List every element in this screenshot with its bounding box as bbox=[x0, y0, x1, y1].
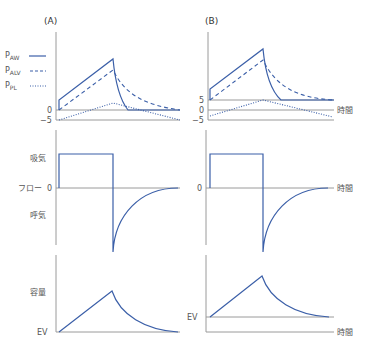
paw-curve bbox=[59, 59, 180, 110]
time-label: 時間 bbox=[337, 328, 353, 337]
tick-5: 5 bbox=[199, 96, 204, 105]
flow-curve bbox=[210, 154, 328, 252]
ppl-curve bbox=[210, 100, 333, 117]
flow-curve bbox=[59, 154, 178, 252]
panel-a-label: (A) bbox=[44, 16, 57, 26]
ev-label: EV bbox=[37, 328, 48, 337]
legend-palv-label: PALV bbox=[5, 66, 22, 76]
ppl-curve bbox=[59, 103, 180, 120]
tick-0: 0 bbox=[199, 106, 204, 115]
inspiration-label: 吸気 bbox=[30, 153, 46, 163]
panel-b-pressure-graph: 5 0 −5 時間 bbox=[192, 32, 353, 125]
volume-curve bbox=[59, 291, 178, 332]
volume-curve bbox=[210, 276, 329, 317]
palv-curve bbox=[210, 60, 334, 100]
panel-a-pressure-graph: 0 −5 bbox=[40, 32, 180, 125]
panel-b-flow-graph: 0 時間 bbox=[197, 130, 353, 252]
legend: PAW PALV PPL bbox=[5, 51, 46, 91]
time-label: 時間 bbox=[337, 184, 353, 193]
panel-a-volume-graph: 容量 EV bbox=[30, 255, 180, 337]
panel-b-label: (B) bbox=[205, 16, 218, 26]
flow-zero-tick: 0 bbox=[197, 184, 202, 193]
legend-paw-label: PAW bbox=[5, 51, 20, 61]
panel-b-volume-graph: EV 時間 bbox=[187, 255, 353, 337]
tick-minus5: −5 bbox=[192, 116, 204, 125]
expiration-label: 呼気 bbox=[30, 210, 46, 220]
ventilation-waveform-diagram: (A) PAW PALV PPL 0 −5 吸気 フロー 0 呼気 容量 bbox=[0, 0, 365, 349]
panel-a-flow-graph: 吸気 フロー 0 呼気 bbox=[18, 130, 180, 252]
paw-curve bbox=[210, 49, 334, 100]
volume-title: 容量 bbox=[30, 287, 46, 297]
legend-ppl-label: PPL bbox=[5, 81, 17, 91]
flow-zero-tick: 0 bbox=[47, 184, 52, 193]
flow-title: フロー bbox=[18, 184, 42, 193]
time-label: 時間 bbox=[337, 106, 353, 115]
ev-label: EV bbox=[187, 313, 198, 322]
palv-curve bbox=[59, 70, 180, 110]
tick-minus5: −5 bbox=[40, 116, 52, 125]
tick-0: 0 bbox=[47, 106, 52, 115]
